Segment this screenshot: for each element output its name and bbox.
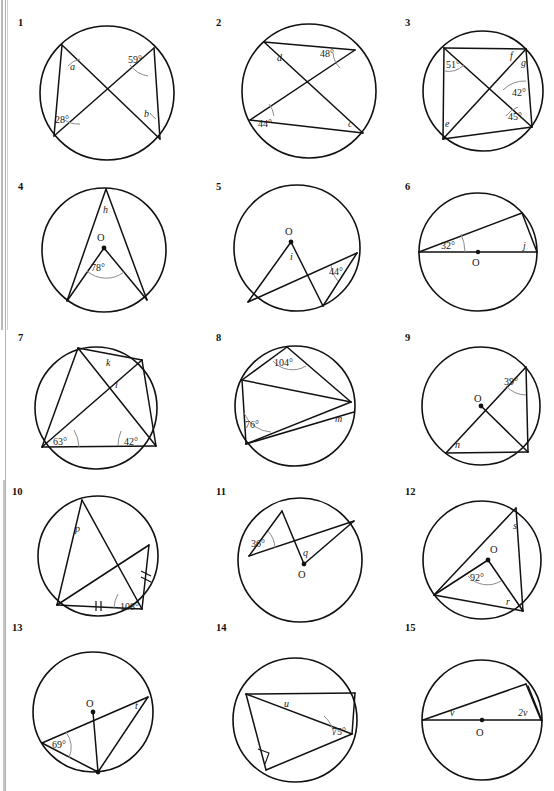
label-center-O: O bbox=[285, 226, 293, 237]
circle-outline bbox=[38, 496, 158, 616]
problem-number-12: 12 bbox=[405, 487, 416, 498]
label-2v: 2v bbox=[518, 707, 528, 718]
chord-14a bbox=[246, 693, 355, 694]
center-dot bbox=[479, 404, 484, 409]
page-spine-shadow bbox=[0, 0, 9, 791]
label-c: c bbox=[348, 118, 353, 129]
worksheet-page: 1 a 28° 59° b 2 bbox=[0, 0, 554, 791]
label-p: p bbox=[74, 523, 80, 534]
label-q: q bbox=[303, 547, 308, 558]
figure-15: v 2v O bbox=[418, 648, 550, 791]
label-76deg: 76° bbox=[245, 419, 259, 430]
label-92deg: 92° bbox=[470, 572, 484, 583]
circle-outline bbox=[242, 24, 376, 158]
label-s: s bbox=[513, 520, 517, 531]
figure-1: a 28° 59° b bbox=[32, 18, 182, 168]
label-45deg: 45° bbox=[508, 111, 522, 122]
spine-bar-2 bbox=[5, 0, 6, 791]
label-t: t bbox=[135, 700, 138, 711]
label-k: k bbox=[106, 357, 111, 368]
center-dot bbox=[102, 246, 107, 251]
spine-bar-3 bbox=[7, 0, 8, 330]
problem-number-9: 9 bbox=[405, 333, 410, 344]
figure-6: 32° j O bbox=[410, 186, 550, 318]
center-dot bbox=[302, 562, 307, 567]
spine-bar-4 bbox=[3, 480, 5, 791]
figure-8: 104° 76° m bbox=[228, 336, 373, 474]
problem-number-10: 10 bbox=[12, 487, 23, 498]
label-75deg: 75° bbox=[332, 726, 346, 737]
center-dot bbox=[486, 558, 491, 563]
center-dot bbox=[480, 718, 485, 723]
label-m: m bbox=[335, 413, 342, 424]
problem-number-1: 1 bbox=[18, 18, 23, 29]
label-39deg: 39° bbox=[504, 376, 518, 387]
problem-number-13: 13 bbox=[12, 623, 23, 634]
label-42deg: 42° bbox=[124, 436, 138, 447]
label-v: v bbox=[450, 707, 455, 718]
label-28deg: 28° bbox=[55, 114, 69, 125]
label-32deg: 32° bbox=[441, 240, 455, 251]
center-dot bbox=[289, 240, 294, 245]
label-108deg: 108° bbox=[120, 601, 139, 612]
label-center-O: O bbox=[476, 727, 484, 738]
circle-outline bbox=[238, 498, 362, 622]
circle-outline bbox=[35, 347, 157, 469]
problem-number-7: 7 bbox=[18, 333, 23, 344]
problem-number-8: 8 bbox=[216, 333, 221, 344]
circle-outline bbox=[423, 501, 541, 619]
label-78deg: 78° bbox=[91, 262, 105, 273]
figure-12: s O 92° r bbox=[418, 492, 552, 624]
label-h: h bbox=[103, 204, 108, 215]
figure-13: O t 69° bbox=[28, 645, 170, 790]
center-dot bbox=[91, 710, 96, 715]
figure-7: k l 63° 42° bbox=[30, 334, 182, 474]
figure-11: 36° q O bbox=[234, 490, 374, 626]
figure-4: h O 78° bbox=[34, 180, 174, 320]
label-center-O: O bbox=[298, 569, 306, 580]
center-dot bbox=[476, 250, 480, 254]
figure-5: O i 44° bbox=[225, 180, 375, 325]
label-104deg: 104° bbox=[274, 357, 293, 368]
problem-number-4: 4 bbox=[18, 182, 23, 193]
figure-2: d 48° 44° c bbox=[233, 15, 385, 167]
label-u: u bbox=[284, 698, 289, 709]
label-i: i bbox=[290, 251, 293, 262]
label-51deg: 51° bbox=[446, 59, 460, 70]
problem-number-14: 14 bbox=[216, 623, 227, 634]
label-59deg: 59° bbox=[128, 54, 142, 65]
circle-outline bbox=[233, 658, 357, 782]
label-44deg: 44° bbox=[329, 266, 343, 277]
figure-10: p 108° bbox=[32, 490, 172, 622]
problem-number-5: 5 bbox=[216, 182, 221, 193]
circle-outline bbox=[235, 346, 355, 466]
circle-outline bbox=[40, 26, 174, 160]
chord-3d bbox=[443, 48, 444, 139]
label-center-O: O bbox=[474, 393, 482, 404]
figure-3: 51° f g 42° e 45° bbox=[420, 15, 552, 163]
problem-number-15: 15 bbox=[405, 623, 416, 634]
label-center-O: O bbox=[86, 698, 94, 709]
spine-bar-1 bbox=[1, 0, 3, 330]
figure-9: 39° O n bbox=[418, 338, 550, 474]
label-b: b bbox=[144, 108, 149, 119]
label-center-O: O bbox=[490, 544, 498, 555]
label-69deg: 69° bbox=[52, 739, 66, 750]
label-r: r bbox=[506, 596, 510, 607]
problem-number-2: 2 bbox=[216, 18, 221, 29]
label-48deg: 48° bbox=[320, 48, 334, 59]
bottom-vertex-dot bbox=[96, 770, 101, 775]
problem-number-11: 11 bbox=[216, 487, 226, 498]
label-e: e bbox=[445, 118, 450, 129]
label-44deg: 44° bbox=[258, 118, 272, 129]
label-a: a bbox=[70, 61, 75, 72]
label-42deg: 42° bbox=[512, 87, 526, 98]
circle-outline bbox=[234, 185, 360, 311]
label-g: g bbox=[521, 57, 526, 68]
label-center-O: O bbox=[97, 232, 105, 243]
label-36deg: 36° bbox=[251, 538, 265, 549]
label-l: l bbox=[115, 379, 118, 390]
problem-number-3: 3 bbox=[405, 18, 410, 29]
label-63deg: 63° bbox=[53, 436, 67, 447]
label-n: n bbox=[455, 439, 460, 450]
